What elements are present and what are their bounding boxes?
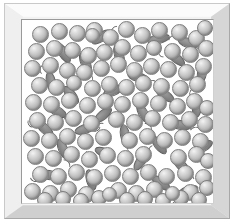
sphere-particle [174, 129, 191, 146]
sphere-particle [153, 78, 170, 95]
sphere-particle [156, 132, 173, 149]
sphere-particle [171, 24, 188, 41]
sphere-particle [177, 165, 194, 182]
sphere-particle [65, 110, 82, 127]
sphere-particle [158, 168, 175, 185]
sphere-particle [172, 80, 189, 97]
sphere-particle [45, 150, 62, 167]
sphere-particle [97, 93, 114, 110]
particle-field [22, 20, 213, 203]
sphere-particle [64, 42, 81, 59]
sphere-particle [191, 192, 207, 204]
sphere-particle [151, 22, 168, 39]
sphere-particle [102, 187, 117, 202]
sphere-particle [77, 133, 94, 150]
sphere-particle [66, 75, 82, 91]
sphere-particle [101, 76, 118, 93]
sphere-particle [130, 45, 147, 62]
sphere-particle [165, 186, 180, 201]
sphere-particle [118, 79, 135, 96]
sphere-particle [200, 153, 214, 169]
sphere-particle [110, 56, 127, 73]
sphere-particle [47, 114, 64, 131]
sphere-particle [160, 61, 177, 78]
sphere-particle [95, 129, 112, 146]
particle-box-figure [0, 0, 234, 223]
sphere-particle [25, 94, 42, 111]
sphere-particle [63, 146, 80, 163]
sphere-particle [135, 146, 152, 163]
sphere-particle [24, 60, 41, 77]
sphere-particle [93, 60, 110, 77]
sphere-particle [146, 40, 162, 56]
sphere-particle [170, 149, 187, 166]
sphere-particle [37, 192, 53, 204]
sphere-particle [181, 111, 198, 128]
sphere-particle [198, 40, 214, 57]
sphere-particle [81, 151, 98, 168]
sphere-particle [144, 110, 161, 127]
sphere-particle [197, 20, 213, 36]
sphere-particle [23, 130, 40, 147]
frame-inner-border [21, 19, 214, 204]
sphere-particle [140, 164, 157, 181]
sphere-particle [80, 47, 97, 64]
sphere-particle [119, 192, 135, 204]
sphere-particle [162, 114, 179, 131]
sphere-particle [108, 111, 125, 128]
sphere-particle [132, 92, 149, 109]
sphere-particle [55, 191, 71, 204]
sphere-particle [83, 115, 100, 132]
sphere-particle [43, 96, 60, 113]
sphere-particle [122, 168, 139, 185]
sphere-particle [48, 79, 65, 96]
sphere-particle [31, 77, 48, 94]
sphere-particle [121, 132, 138, 149]
sphere-particle [117, 150, 134, 167]
sphere-particle [126, 114, 143, 131]
sphere-particle [59, 128, 76, 145]
sphere-particle [85, 28, 100, 43]
sphere-particle [32, 166, 49, 183]
sphere-particle [114, 39, 131, 56]
sphere-particle [99, 147, 116, 164]
sphere-particle [69, 25, 86, 42]
sphere-particle [104, 165, 121, 182]
sphere-particle [41, 132, 58, 149]
sphere-particle [46, 40, 63, 57]
sphere-particle [197, 116, 214, 133]
sphere-particle [139, 128, 156, 145]
sphere-particle [189, 76, 206, 93]
sphere-particle [27, 148, 44, 165]
sphere-particle [96, 44, 113, 61]
sphere-particle [137, 191, 153, 204]
sphere-particle [199, 100, 214, 116]
sphere-particle [28, 43, 45, 60]
sphere-particle [73, 193, 89, 204]
sphere-particle [135, 75, 152, 92]
sphere-particle [79, 97, 96, 114]
worm-tail [209, 134, 214, 153]
sphere-particle [51, 23, 68, 40]
sphere-particle [42, 57, 59, 74]
sphere-particle [84, 80, 101, 97]
sphere-particle [143, 58, 160, 75]
sphere-particle [61, 92, 78, 109]
sphere-particle [86, 169, 103, 186]
sphere-particle [32, 26, 49, 43]
sphere-particle [195, 58, 212, 75]
sphere-particle [29, 112, 46, 129]
sphere-particle [118, 21, 135, 38]
sphere-particle [164, 43, 181, 60]
sphere-particle [68, 164, 85, 181]
